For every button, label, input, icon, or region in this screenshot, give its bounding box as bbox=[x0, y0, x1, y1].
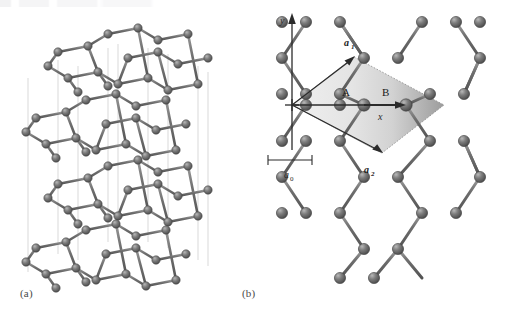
panel-a-label: (a) bbox=[20, 287, 33, 299]
lattice-vector-a1-label: a bbox=[344, 37, 349, 48]
figure-container: (a) bbox=[0, 0, 507, 319]
y-axis-label: y bbox=[279, 15, 285, 26]
graphite-layer-3 bbox=[44, 156, 212, 228]
atom-label-a: A bbox=[342, 86, 350, 98]
panel-b-label: (b) bbox=[242, 287, 255, 299]
graphite-layer-4 bbox=[22, 220, 190, 292]
scale-bar-label: a bbox=[284, 169, 289, 180]
atom-label-b: B bbox=[382, 86, 389, 98]
graphite-layer-1 bbox=[44, 24, 212, 96]
lattice-vector-a1-subscript: 1 bbox=[351, 43, 355, 51]
carbon-atoms bbox=[254, 16, 486, 283]
panel-a-graphite-3d: (a) bbox=[0, 0, 254, 319]
x-axis-label: x bbox=[377, 111, 383, 122]
panel-a-svg bbox=[0, 0, 254, 319]
scale-bar-subscript: 0 bbox=[290, 175, 294, 183]
lattice-vector-a2-subscript: 2 bbox=[370, 170, 375, 178]
scale-bar-a0: a 0 bbox=[268, 155, 312, 183]
lattice-vector-a2-label: a bbox=[364, 164, 369, 175]
graphite-layer-2 bbox=[22, 90, 190, 162]
panel-b-svg: y x a 1 bbox=[254, 0, 507, 319]
panel-b-graphene-lattice: y x a 1 bbox=[254, 0, 507, 319]
